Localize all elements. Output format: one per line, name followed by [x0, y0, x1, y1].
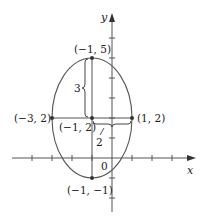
label-top-vertex: (−1, 5) — [74, 43, 111, 55]
ellipse-diagram: y x 0 (−1, 5) (−3, 2) (−1, 2) (1, 2) (−1… — [0, 0, 203, 216]
brace-pointer — [100, 128, 104, 135]
label-right-covertex: (1, 2) — [137, 112, 165, 124]
distance-label-3: 3 — [74, 82, 81, 94]
x-axis-label: x — [187, 164, 194, 177]
label-left-covertex: (−3, 2) — [14, 112, 51, 124]
y-axis-arrow-icon — [109, 13, 115, 22]
x-axis-arrow-icon — [187, 155, 196, 161]
origin-label: 0 — [101, 160, 108, 172]
point-right-covertex — [130, 116, 134, 120]
point-bottom-vertex — [90, 176, 94, 180]
y-axis-label: y — [100, 11, 108, 24]
label-bottom-vertex: (−1, −1) — [67, 184, 113, 196]
point-top-vertex — [90, 56, 94, 60]
point-center — [90, 116, 94, 120]
label-center: (−1, 2) — [59, 121, 96, 133]
vertical-brace-icon — [82, 59, 88, 117]
distance-label-2: 2 — [96, 136, 103, 148]
